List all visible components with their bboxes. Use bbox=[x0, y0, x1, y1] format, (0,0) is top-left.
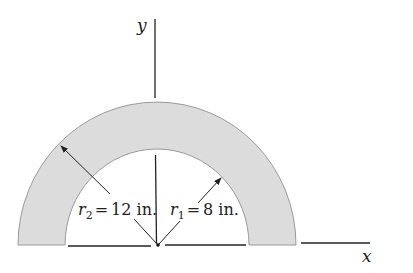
semicircular-ring bbox=[18, 102, 296, 245]
r2-leader-line bbox=[134, 219, 157, 244]
r2-label: r2=12 in. bbox=[78, 200, 157, 222]
r1-label: r1=8 in. bbox=[170, 200, 239, 222]
y-axis-label: y bbox=[136, 15, 147, 35]
diagram: y x r2=12 in. r1=8 in. bbox=[0, 0, 413, 273]
r1-leader-line bbox=[159, 221, 180, 244]
x-axis-label: x bbox=[362, 246, 372, 266]
